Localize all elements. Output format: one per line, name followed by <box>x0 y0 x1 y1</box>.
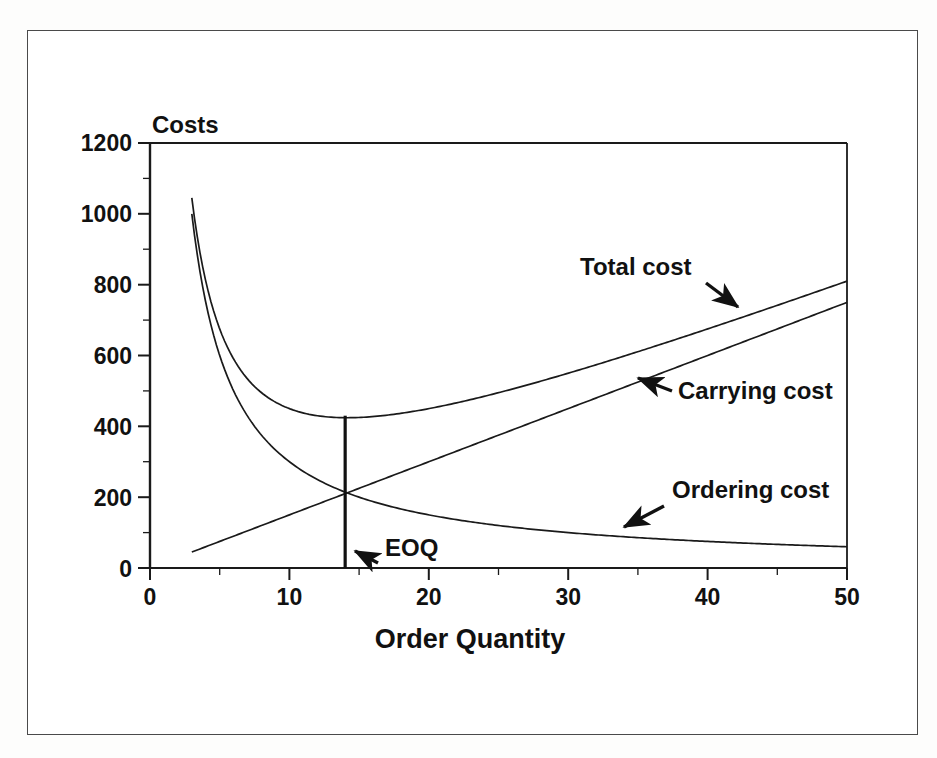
carrying-cost-line <box>192 302 847 552</box>
y-axis-title: Costs <box>152 111 219 138</box>
eoq-cost-chart: 1200 1000 800 600 400 200 0 0 10 20 30 4… <box>0 0 937 758</box>
x-tick-label: 30 <box>555 584 581 610</box>
annotation-eoq: EOQ <box>355 534 438 563</box>
eoq-arrow <box>355 551 378 563</box>
annotation-total-cost: Total cost <box>580 253 738 307</box>
ordering-cost-label: Ordering cost <box>672 476 829 503</box>
x-axis-ticks <box>150 568 847 580</box>
x-tick-label: 0 <box>144 584 157 610</box>
y-tick-label: 800 <box>94 272 132 298</box>
x-tick-label: 40 <box>695 584 721 610</box>
y-axis-ticks <box>138 143 150 568</box>
plot-axes-box <box>150 143 847 568</box>
annotation-carrying-cost: Carrying cost <box>638 377 833 404</box>
y-tick-label: 1000 <box>81 201 132 227</box>
y-tick-label: 600 <box>94 343 132 369</box>
y-tick-label: 1200 <box>81 130 132 156</box>
x-tick-label: 10 <box>277 584 303 610</box>
x-tick-label: 20 <box>416 584 442 610</box>
total-cost-arrow <box>706 283 738 307</box>
y-tick-label: 400 <box>94 414 132 440</box>
y-tick-label: 200 <box>94 485 132 511</box>
annotation-ordering-cost: Ordering cost <box>624 476 829 527</box>
y-tick-labels: 1200 1000 800 600 400 200 0 <box>81 130 132 582</box>
carrying-cost-arrow <box>638 378 672 391</box>
y-tick-label: 0 <box>119 556 132 582</box>
carrying-cost-label: Carrying cost <box>678 377 833 404</box>
total-cost-label: Total cost <box>580 253 692 280</box>
ordering-cost-arrow <box>624 506 664 527</box>
x-tick-labels: 0 10 20 30 40 50 <box>144 584 860 610</box>
x-axis-title: Order Quantity <box>375 624 566 654</box>
eoq-label: EOQ <box>385 534 438 561</box>
x-tick-label: 50 <box>834 584 860 610</box>
